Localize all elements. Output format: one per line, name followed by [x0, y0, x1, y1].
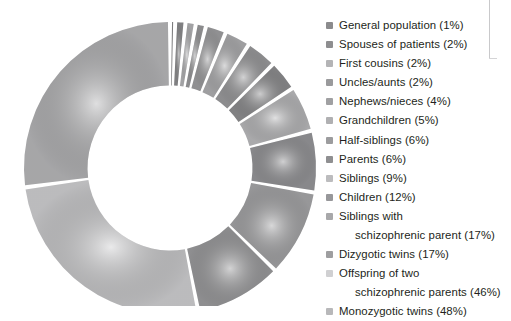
legend-item-label: Half-siblings (6%): [339, 131, 429, 150]
donut-slice-shading: [24, 22, 169, 185]
legend-item[interactable]: Uncles/aunts (2%): [326, 73, 511, 92]
legend-item[interactable]: Spouses of patients (2%): [326, 35, 511, 54]
legend-swatch-icon: [326, 194, 333, 201]
legend-item-label: Spouses of patients (2%): [339, 35, 467, 54]
legend-swatch-icon: [326, 60, 333, 67]
legend-swatch-icon: [326, 175, 333, 182]
legend-item[interactable]: Half-siblings (6%): [326, 131, 511, 150]
legend-item-label: Siblings (9%): [339, 169, 407, 188]
chart-legend: General population (1%)Spouses of patien…: [326, 16, 511, 321]
legend-item-label: Dizygotic twins (17%): [339, 245, 449, 264]
legend-item[interactable]: Siblings withschizophrenic parent (17%): [326, 207, 511, 245]
legend-item[interactable]: Dizygotic twins (17%): [326, 245, 511, 264]
legend-swatch-icon: [326, 251, 333, 258]
legend-item-label: Offspring of twoschizophrenic parents (4…: [339, 264, 501, 302]
legend-swatch-icon: [326, 213, 333, 220]
legend-item[interactable]: Monozygotic twins (48%): [326, 302, 511, 321]
legend-item-label: Children (12%): [339, 188, 416, 207]
legend-item-label: Siblings withschizophrenic parent (17%): [339, 207, 495, 245]
legend-item-label: Nephews/nieces (4%): [339, 92, 451, 111]
legend-item-label-continuation: schizophrenic parent (17%): [339, 226, 495, 245]
legend-swatch-icon: [326, 308, 333, 315]
donut-slice-group: [24, 22, 316, 306]
legend-swatch-icon: [326, 79, 333, 86]
donut-slice-shading: [26, 180, 197, 306]
legend-item[interactable]: Grandchildren (5%): [326, 111, 511, 130]
legend-item-label: Grandchildren (5%): [339, 111, 439, 130]
legend-item-label: Uncles/aunts (2%): [339, 73, 433, 92]
legend-swatch-icon: [326, 270, 333, 277]
legend-item[interactable]: Children (12%): [326, 188, 511, 207]
legend-item-label: Parents (6%): [339, 150, 406, 169]
legend-item-label: Monozygotic twins (48%): [339, 302, 467, 321]
legend-item[interactable]: General population (1%): [326, 16, 511, 35]
legend-item[interactable]: Nephews/nieces (4%): [326, 92, 511, 111]
legend-swatch-icon: [326, 98, 333, 105]
legend-item-label: First cousins (2%): [339, 54, 431, 73]
donut-chart-svg: [0, 0, 330, 306]
donut-slice-shading: [171, 22, 173, 86]
legend-swatch-icon: [326, 22, 333, 29]
legend-item-label-continuation: schizophrenic parents (46%): [339, 283, 501, 302]
legend-swatch-icon: [326, 117, 333, 124]
legend-swatch-icon: [326, 156, 333, 163]
legend-item[interactable]: First cousins (2%): [326, 54, 511, 73]
page-edge-line: [489, 0, 490, 59]
legend-item[interactable]: Offspring of twoschizophrenic parents (4…: [326, 264, 511, 302]
legend-item-label: General population (1%): [339, 16, 464, 35]
legend-item[interactable]: Parents (6%): [326, 150, 511, 169]
legend-swatch-icon: [326, 137, 333, 144]
legend-swatch-icon: [326, 41, 333, 48]
legend-item[interactable]: Siblings (9%): [326, 169, 511, 188]
page-edge-line-foot: [489, 58, 497, 59]
